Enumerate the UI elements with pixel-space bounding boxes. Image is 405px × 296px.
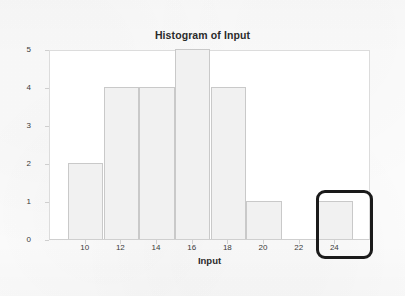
y-tick-label: 5 [13,45,31,54]
chart-title: Histogram of Input [0,29,405,41]
outlier-highlight-box [316,190,373,259]
histogram-bar [139,87,175,239]
x-tick-label: 22 [286,243,312,252]
y-tick-label: 1 [13,197,31,206]
x-tick-label: 10 [72,243,98,252]
y-tick-label: 3 [13,121,31,130]
histogram-bar [175,49,211,239]
x-tick-label: 20 [250,243,276,252]
x-tick-mark [85,240,86,244]
y-tick-label: 4 [13,83,31,92]
histogram-figure: Histogram of Input Frequency Input 01234… [0,0,405,296]
y-tick-label: 0 [13,235,31,244]
x-tick-label: 18 [214,243,240,252]
histogram-bar [68,163,104,239]
x-tick-mark [192,240,193,244]
x-tick-label: 16 [179,243,205,252]
histogram-bar [246,201,282,239]
x-tick-mark [227,240,228,244]
x-tick-mark [156,240,157,244]
x-tick-label: 14 [143,243,169,252]
histogram-bar [104,87,140,239]
y-tick-label: 2 [13,159,31,168]
x-tick-label: 12 [107,243,133,252]
x-tick-mark [263,240,264,244]
x-tick-mark [299,240,300,244]
y-tick-mark [45,240,49,241]
histogram-bar [211,87,247,239]
x-tick-mark [120,240,121,244]
